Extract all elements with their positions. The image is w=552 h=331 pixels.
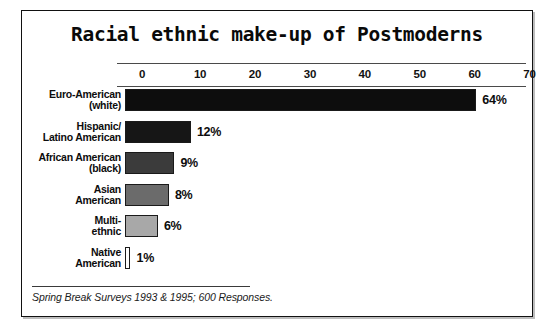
x-axis-tick-0: 0: [139, 66, 145, 83]
bar-category-label: Asian American: [0, 183, 121, 206]
bar-row: Asian American8%: [22, 184, 534, 206]
x-axis-tick-10: 10: [194, 66, 206, 83]
bar-value-label: 8%: [175, 188, 192, 202]
bar-rect[interactable]: [125, 152, 174, 174]
bar-value-label: 6%: [164, 219, 181, 233]
bar-value-label: 12%: [197, 125, 221, 139]
axis-rule-top: [117, 63, 526, 64]
bar-category-label: African American (black): [0, 152, 121, 175]
bar-row: Euro-American (white)64%: [22, 89, 534, 111]
x-axis-tick-30: 30: [304, 66, 316, 83]
footer-divider: [32, 286, 250, 287]
bar-row: Multi- ethnic6%: [22, 215, 534, 237]
bar-value-label: 1%: [136, 251, 153, 265]
x-axis-tick-60: 60: [468, 66, 480, 83]
x-axis: 010203040506070: [117, 63, 526, 87]
bar-rect[interactable]: [125, 121, 191, 143]
bar-category-label: Euro-American (white): [0, 89, 121, 112]
bar-row: African American (black)9%: [22, 152, 534, 174]
bar-row: Hispanic/ Latino American12%: [22, 121, 534, 143]
axis-rule-bottom: [117, 86, 526, 87]
bar-rect[interactable]: [125, 247, 130, 269]
bar-rect[interactable]: [125, 184, 169, 206]
bar-category-label: Multi- ethnic: [0, 215, 121, 238]
bar-rect[interactable]: [125, 89, 476, 111]
x-axis-tick-70: 70: [523, 66, 535, 83]
bar-category-label: Hispanic/ Latino American: [0, 120, 121, 143]
bar-category-label: Native American: [0, 246, 121, 269]
x-axis-tick-50: 50: [414, 66, 426, 83]
x-axis-tick-40: 40: [359, 66, 371, 83]
source-note: Spring Break Surveys 1993 & 1995; 600 Re…: [32, 291, 524, 303]
bar-value-label: 9%: [180, 156, 197, 170]
bar-rect[interactable]: [125, 215, 158, 237]
chart-footer: Spring Break Surveys 1993 & 1995; 600 Re…: [32, 286, 524, 303]
bar-row: Native American1%: [22, 247, 534, 269]
plot-area: Euro-American (white)64%Hispanic/ Latino…: [22, 89, 534, 275]
bar-value-label: 64%: [482, 93, 506, 107]
chart-frame: Racial ethnic make-up of Postmoderns 010…: [21, 10, 533, 317]
chart-title: Racial ethnic make-up of Postmoderns: [22, 23, 532, 46]
x-axis-tick-20: 20: [249, 66, 261, 83]
x-axis-tick-labels: 010203040506070: [117, 66, 526, 85]
